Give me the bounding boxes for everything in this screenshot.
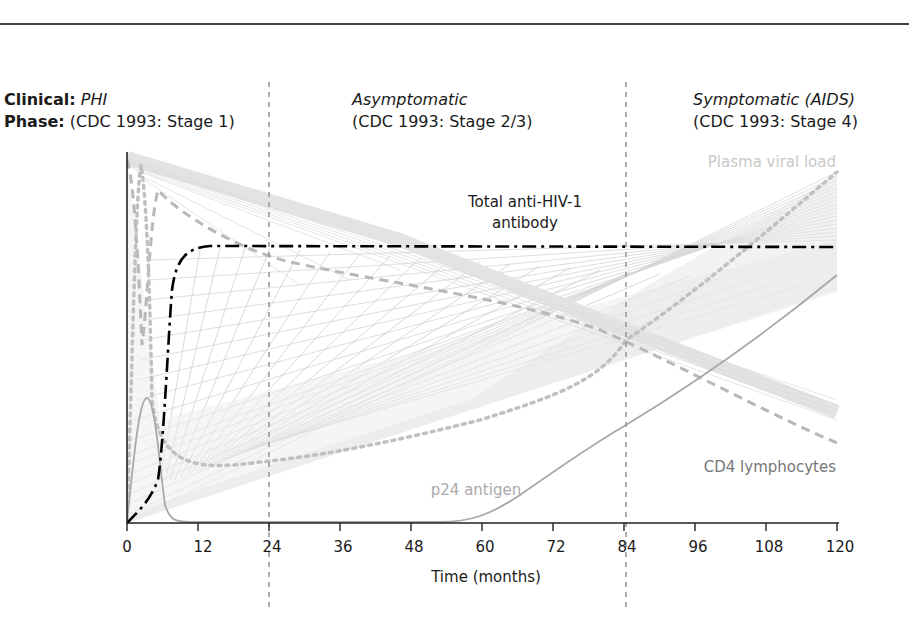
cd4-label: CD4 lymphocytes <box>704 458 836 476</box>
x-tick-60: 60 <box>475 538 494 556</box>
chart-canvas: 0 12 24 36 48 60 72 84 96 108 120 Time (… <box>0 0 909 633</box>
x-axis-label: Time (months) <box>430 568 541 586</box>
x-tick-12: 12 <box>193 538 212 556</box>
x-tick-120: 120 <box>826 538 855 556</box>
x-tick-84: 84 <box>617 538 636 556</box>
x-tick-108: 108 <box>755 538 784 556</box>
antibody-label-line1: Total anti-HIV-1 <box>467 193 582 211</box>
x-ticks <box>127 523 837 531</box>
x-tick-48: 48 <box>404 538 423 556</box>
x-tick-0: 0 <box>122 538 132 556</box>
x-tick-labels: 0 12 24 36 48 60 72 84 96 108 120 <box>122 538 854 556</box>
x-tick-96: 96 <box>688 538 707 556</box>
p24-label: p24 antigen <box>431 481 521 499</box>
x-tick-72: 72 <box>546 538 565 556</box>
antibody-label-line2: antibody <box>492 214 558 232</box>
x-tick-24: 24 <box>262 538 281 556</box>
x-tick-36: 36 <box>333 538 352 556</box>
viral-load-label: Plasma viral load <box>708 153 836 171</box>
